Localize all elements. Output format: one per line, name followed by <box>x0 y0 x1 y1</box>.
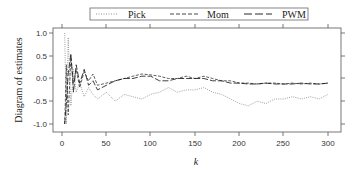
legend-box <box>90 8 308 20</box>
x-tick-label: 50 <box>102 139 111 148</box>
plot-frame <box>53 28 341 132</box>
chart: Pick Mom PWM 1.0 0.5 0.0 -0.5 -1.0 Diagr… <box>0 0 361 176</box>
x-tick-label: 250 <box>276 139 290 148</box>
x-tick-label: 150 <box>188 139 202 148</box>
x-axis-title: k <box>194 156 199 167</box>
y-axis: 1.0 0.5 0.0 -0.5 -1.0 Diagram of estimat… <box>13 29 345 129</box>
series-layer <box>65 33 328 124</box>
y-tick-label: -1.0 <box>33 120 47 129</box>
y-tick-label: -0.5 <box>33 97 47 106</box>
legend-pick-label: Pick <box>128 9 146 20</box>
legend-pwm-label: PWM <box>282 9 306 20</box>
series-mom-line <box>65 58 328 124</box>
x-tick-label: 0 <box>60 139 65 148</box>
y-tick-label: 0.0 <box>36 74 48 83</box>
legend-mom-label: Mom <box>207 9 229 20</box>
x-tick-label: 100 <box>143 139 157 148</box>
series-pwm-line <box>65 54 328 125</box>
y-axis-title: Diagram of estimates <box>13 37 24 123</box>
x-tick-label: 200 <box>232 139 246 148</box>
x-tick-label: 300 <box>321 139 335 148</box>
x-axis: 0 50 100 150 200 250 300 k <box>60 24 335 167</box>
y-tick-label: 0.5 <box>36 52 48 61</box>
y-tick-label: 1.0 <box>36 29 48 38</box>
legend: Pick Mom PWM <box>90 8 308 20</box>
